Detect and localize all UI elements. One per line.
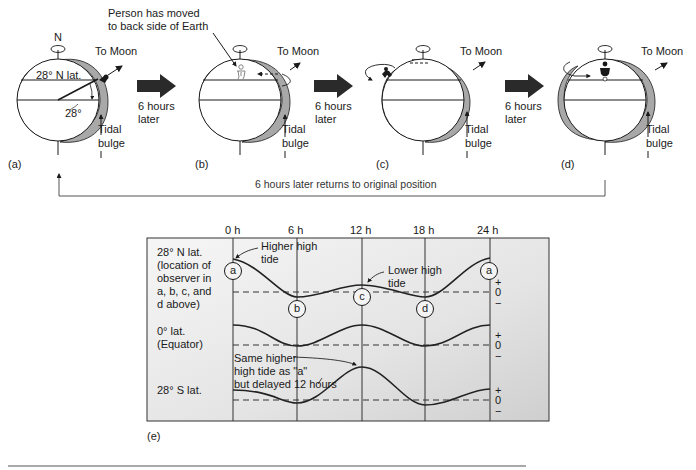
arrow-2-label-line1: 6 hours	[315, 100, 352, 113]
moon-label-d: To Moon	[641, 45, 683, 58]
bulge-label-a2: bulge	[98, 137, 125, 150]
big-arrow-3	[505, 74, 544, 98]
big-arrow-1	[137, 74, 176, 98]
bulge-label-c2: bulge	[465, 137, 492, 150]
bulge-label-c1: Tidal	[465, 123, 488, 136]
bulge-label-a1: Tidal	[98, 123, 121, 136]
arrow-1-label-line1: 6 hours	[138, 100, 175, 113]
annotation-lower-high-2: tide	[388, 277, 406, 290]
marker-b: b	[288, 300, 306, 318]
tick-0h: 0 h	[225, 224, 240, 237]
sign-minus-3: −	[495, 405, 501, 418]
bulge-label-d1: Tidal	[646, 123, 669, 136]
callout-text-line1: Person has moved	[108, 7, 200, 20]
bulge-label-d2: bulge	[646, 137, 673, 150]
sign-minus-2: −	[495, 350, 501, 363]
moon-label-c: To Moon	[460, 45, 502, 58]
panel-label-d: (d)	[561, 158, 574, 171]
marker-a-start: a	[224, 262, 242, 280]
callout-text-line2: to back side of Earth	[108, 20, 208, 33]
tick-18h: 18 h	[413, 224, 434, 237]
arrow-3-label-line1: 6 hours	[505, 100, 542, 113]
arrow-1-label-line2: later	[138, 113, 159, 126]
marker-c: c	[353, 288, 371, 306]
return-label: 6 hours later returns to original positi…	[255, 178, 437, 191]
annotation-higher-high-1: Higher high	[261, 240, 317, 253]
annotation-same-2: high tide as "a"	[234, 365, 307, 378]
angle-label-a: 28°	[65, 107, 82, 120]
annotation-same-3: but delayed 12 hours	[234, 378, 337, 391]
tick-6h: 6 h	[288, 224, 303, 237]
panel-label-e: (e)	[147, 430, 160, 443]
north-label: N	[54, 31, 62, 44]
moon-label-b: To Moon	[277, 45, 319, 58]
row-label-28n: 28° N lat. (location of observer in a, b…	[157, 246, 211, 311]
panel-label-c: (c)	[376, 158, 389, 171]
moon-label-a: To Moon	[95, 45, 137, 58]
panel-label-a: (a)	[8, 158, 21, 171]
bulge-label-b2: bulge	[282, 137, 309, 150]
annotation-higher-high-2: tide	[261, 253, 279, 266]
panel-label-b: (b)	[195, 158, 208, 171]
annotation-lower-high-1: Lower high	[388, 264, 442, 277]
tick-24h: 24 h	[477, 224, 498, 237]
row-label-28s: 28° S lat.	[157, 384, 202, 397]
big-arrow-2	[314, 74, 353, 98]
bulge-label-b1: Tidal	[282, 123, 305, 136]
marker-d: d	[416, 300, 434, 318]
diagram-canvas	[0, 0, 696, 470]
annotation-same-1: Same higher	[234, 352, 296, 365]
lat-label-a: 28° N lat.	[36, 69, 81, 82]
sign-minus-1: −	[495, 297, 501, 310]
tick-12h: 12 h	[350, 224, 371, 237]
row-label-equator: 0° lat. (Equator)	[157, 325, 203, 351]
arrow-2-label-line2: later	[315, 113, 336, 126]
arrow-3-label-line2: later	[505, 113, 526, 126]
